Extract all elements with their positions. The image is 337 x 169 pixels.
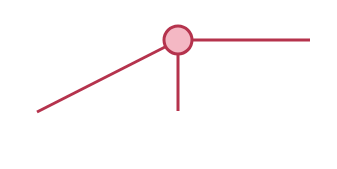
center-node: [164, 26, 192, 54]
edge-left-diagonal: [37, 47, 165, 112]
diagram-canvas: [0, 0, 337, 169]
node-link-diagram: [0, 0, 337, 169]
